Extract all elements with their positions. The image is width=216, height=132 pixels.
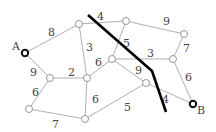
node-n3 bbox=[181, 31, 188, 38]
weight-n4-n5: 2 bbox=[68, 66, 75, 79]
edge-n2-n3 bbox=[126, 21, 184, 34]
weight-n7-B: 6 bbox=[185, 71, 192, 84]
edge-weights: 8 9 4 3 9 5 7 3 2 6 6 7 6 9 5 4 6 bbox=[30, 10, 192, 131]
weight-n2-n3: 9 bbox=[163, 15, 170, 28]
weight-n5-n6: 6 bbox=[95, 56, 102, 69]
node-n9 bbox=[82, 116, 89, 123]
weight-n8-n9: 7 bbox=[52, 118, 59, 131]
node-n5 bbox=[84, 75, 91, 82]
node-n6 bbox=[109, 56, 116, 63]
weight-n3-n7: 7 bbox=[183, 42, 190, 55]
graph-canvas: 8 9 4 3 9 5 7 3 2 6 6 7 6 9 5 4 6 A B bbox=[0, 0, 216, 132]
edge-A-n4 bbox=[25, 53, 50, 78]
edge-n10-B bbox=[146, 83, 193, 104]
edge-n5-n9 bbox=[85, 78, 87, 119]
node-n8 bbox=[26, 106, 33, 113]
node-n1 bbox=[76, 21, 83, 28]
weight-n4-n8: 6 bbox=[32, 86, 39, 99]
weight-A-n4: 9 bbox=[30, 66, 37, 79]
weight-n6-n7: 3 bbox=[147, 47, 154, 60]
node-n10 bbox=[143, 80, 150, 87]
label-A: A bbox=[11, 40, 21, 53]
weight-n6-n10: 9 bbox=[135, 64, 142, 77]
weight-n5-n9: 6 bbox=[92, 93, 99, 106]
node-n4 bbox=[47, 75, 54, 82]
node-n7 bbox=[170, 56, 177, 63]
weight-n9-n10: 5 bbox=[124, 101, 131, 114]
label-B: B bbox=[197, 104, 205, 117]
node-A bbox=[22, 50, 28, 56]
node-n2 bbox=[123, 18, 130, 25]
weight-A-n1: 8 bbox=[48, 26, 55, 39]
weight-n1-n5: 3 bbox=[86, 41, 93, 54]
node-B bbox=[190, 101, 196, 107]
weight-n1-n2: 4 bbox=[97, 10, 104, 23]
